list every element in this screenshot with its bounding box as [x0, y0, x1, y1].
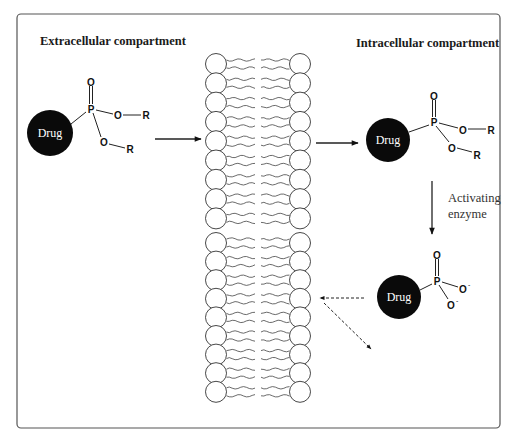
- lipid-tail: [227, 395, 256, 397]
- lipid-tail: [261, 163, 290, 165]
- phospholipid-pair: [206, 307, 311, 328]
- lipid-tail: [261, 387, 290, 389]
- lipid-tail: [261, 194, 290, 196]
- lipid-tail: [227, 349, 256, 351]
- lipid-tail: [261, 331, 290, 333]
- phospholipid-pair: [206, 363, 311, 384]
- drug-label: Drug: [38, 126, 63, 140]
- phospholipid-pair: [206, 208, 311, 229]
- lipid-tail: [227, 264, 256, 266]
- ester-oxygen-2: O: [100, 137, 108, 148]
- lipid-tail: [261, 320, 290, 322]
- lipid-tail: [227, 78, 256, 80]
- prodrug-activation-diagram: Extracellular compartment Intracellular …: [0, 0, 515, 445]
- lipid-tail: [227, 256, 256, 258]
- inner-lipid-head: [290, 288, 311, 309]
- outer-lipid-head: [206, 54, 227, 75]
- lipid-tail: [227, 202, 256, 204]
- p-o-bond-2: [439, 285, 448, 299]
- phosphorus-atom: P: [434, 276, 441, 287]
- negative-charge-2: -: [456, 297, 459, 304]
- inner-lipid-head: [290, 54, 311, 75]
- phospholipid-pair: [206, 233, 311, 254]
- inner-lipid-head: [290, 189, 311, 210]
- outer-lipid-head: [206, 270, 227, 291]
- active-drug-phosphate: Drug P O O - O -: [377, 250, 471, 319]
- phospholipid-pair: [206, 326, 311, 347]
- inner-lipid-head: [290, 381, 311, 402]
- lipid-tail: [261, 264, 290, 266]
- lipid-tail: [261, 246, 290, 248]
- lipid-tail: [261, 213, 290, 215]
- o-r-bond-2: [457, 148, 472, 152]
- inner-lipid-head: [290, 270, 311, 291]
- oxo-oxygen-atom: O: [87, 77, 95, 88]
- lipid-tail: [227, 144, 256, 146]
- ester-oxygen-2: O: [448, 143, 456, 154]
- outer-lipid-head: [206, 363, 227, 384]
- p-o-bond-2: [93, 113, 101, 137]
- inner-lipid-head: [290, 344, 311, 365]
- outer-lipid-head: [206, 381, 227, 402]
- lipid-tail: [227, 376, 256, 378]
- enzyme-label-line2: enzyme: [448, 207, 487, 221]
- inner-lipid-head: [290, 150, 311, 171]
- phospholipid-pair: [206, 92, 311, 113]
- anionic-oxygen-2: O: [447, 300, 455, 311]
- lipid-tail: [227, 246, 256, 248]
- lipid-tail: [261, 183, 290, 185]
- inner-lipid-head: [290, 251, 311, 272]
- phospholipid-pair: [206, 270, 311, 291]
- lipid-tail: [261, 98, 290, 100]
- phospholipid-pair: [206, 54, 311, 75]
- inner-lipid-head: [290, 307, 311, 328]
- lipid-tail: [227, 194, 256, 196]
- lipid-tail: [227, 339, 256, 341]
- lipid-tail: [261, 144, 290, 146]
- outer-lipid-head: [206, 344, 227, 365]
- p-o-bond-1: [96, 110, 113, 114]
- lipid-tail: [227, 183, 256, 185]
- drug-p-bond: [409, 125, 429, 132]
- inner-lipid-head: [290, 326, 311, 347]
- prodrug-extracellular: Drug P O O R O R: [27, 77, 150, 156]
- outer-lipid-head: [206, 150, 227, 171]
- drug-label: Drug: [387, 290, 412, 304]
- lipid-tail: [261, 395, 290, 397]
- lipid-tail: [261, 368, 290, 370]
- lipid-tail: [261, 78, 290, 80]
- ester-oxygen-1: O: [114, 110, 122, 121]
- inner-lipid-head: [290, 131, 311, 152]
- outer-lipid-head: [206, 111, 227, 132]
- inner-lipid-head: [290, 92, 311, 113]
- lipid-tail: [261, 175, 290, 177]
- lipid-tail: [261, 357, 290, 359]
- outer-lipid-head: [206, 233, 227, 254]
- lipid-tail: [261, 339, 290, 341]
- outer-lipid-head: [206, 73, 227, 94]
- lipid-tail: [227, 117, 256, 119]
- lipid-bilayer: [206, 54, 311, 403]
- outer-lipid-head: [206, 189, 227, 210]
- outer-lipid-head: [206, 251, 227, 272]
- lipid-tail: [261, 238, 290, 240]
- lipid-tail: [227, 294, 256, 296]
- oxo-oxygen-atom: O: [433, 250, 441, 261]
- inner-lipid-head: [290, 363, 311, 384]
- outer-lipid-head: [206, 169, 227, 190]
- lipid-tail: [227, 105, 256, 107]
- outer-lipid-head: [206, 92, 227, 113]
- phosphorus-atom: P: [431, 117, 438, 128]
- phospholipid-pair: [206, 150, 311, 171]
- lipid-tail: [227, 155, 256, 157]
- phospholipid-pair: [206, 111, 311, 132]
- lipid-tail: [261, 294, 290, 296]
- lipid-tail: [261, 256, 290, 258]
- phospholipid-pair: [206, 381, 311, 402]
- lipid-tail: [261, 105, 290, 107]
- outer-lipid-head: [206, 288, 227, 309]
- lipid-tail: [261, 117, 290, 119]
- r-group-1: R: [142, 110, 150, 121]
- lipid-tail: [227, 302, 256, 304]
- lipid-tail: [227, 125, 256, 127]
